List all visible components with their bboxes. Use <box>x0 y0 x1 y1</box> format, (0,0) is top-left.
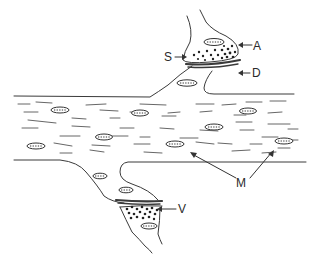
d-arrowhead <box>238 70 243 76</box>
m-arrowhead-left <box>190 152 197 158</box>
mito-shaft-4 <box>240 108 257 114</box>
m-arrow-left <box>192 154 236 178</box>
mito-lower-1 <box>93 173 107 179</box>
diagram-drawing <box>0 0 316 254</box>
mito-shaft-1 <box>177 80 197 86</box>
vesicles-lower <box>126 206 159 221</box>
mito-shaft-9 <box>275 138 293 144</box>
mito-shaft-2 <box>51 107 69 113</box>
mito-lower-terminal <box>141 223 157 229</box>
label-a: A <box>253 40 261 52</box>
mito-shaft-7 <box>27 143 45 149</box>
mito-shaft-3 <box>132 110 149 116</box>
synapse-diagram: A S D M V <box>0 0 316 254</box>
mito-shaft-5 <box>205 124 223 130</box>
shaft-bottom-edge-right <box>120 162 306 200</box>
label-d: D <box>252 67 261 79</box>
label-s: S <box>164 51 172 63</box>
shaft-bottom-edge <box>14 160 124 203</box>
mito-upper-terminal <box>204 39 224 46</box>
mito-shaft-8 <box>166 141 184 147</box>
label-v: V <box>178 203 186 215</box>
m-arrow-right <box>250 152 272 178</box>
lower-cleft-band-2 <box>118 203 160 204</box>
label-m: M <box>236 177 246 189</box>
a-arrowhead <box>238 42 243 48</box>
mito-shaft-6 <box>96 134 113 140</box>
shaft-top-edge <box>14 66 192 97</box>
mito-lower-2 <box>119 187 133 193</box>
shaft-top-edge-right <box>204 71 294 94</box>
lower-cleft-band <box>116 200 162 201</box>
